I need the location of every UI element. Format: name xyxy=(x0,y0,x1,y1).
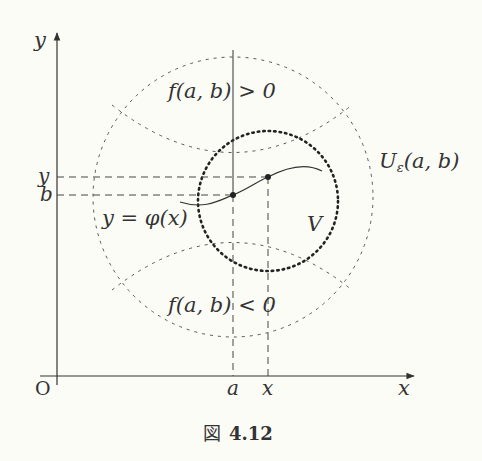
implicit-function-label: y = φ(x) xyxy=(101,206,188,230)
neighborhood-v-label: V xyxy=(307,212,324,236)
neighborhood-u-argument: (a, b) xyxy=(404,149,460,173)
point-x-y xyxy=(265,174,271,180)
neighborhood-u-label: Uε(a, b) xyxy=(379,149,459,175)
origin-label: O xyxy=(35,377,51,399)
implicit-function-diagram: y x O y b a x f(a, b) > 0 f(a, b) < 0 y … xyxy=(0,0,482,461)
x-axis-label: x xyxy=(398,376,410,400)
upper-boundary-curve xyxy=(112,105,352,153)
tick-label-x: x xyxy=(262,376,273,400)
neighborhood-u-subscript: ε xyxy=(397,160,404,175)
lower-boundary-curve xyxy=(112,243,352,291)
point-a-b xyxy=(230,192,236,198)
region-positive-label: f(a, b) > 0 xyxy=(166,79,276,103)
caption-prefix: 図 xyxy=(203,423,221,444)
tick-label-a: a xyxy=(227,376,239,400)
neighborhood-u-main: U xyxy=(379,149,398,173)
tick-label-b: b xyxy=(40,182,53,206)
y-axis-label: y xyxy=(33,28,47,52)
caption-number: 4.12 xyxy=(229,423,273,444)
region-negative-label: f(a, b) < 0 xyxy=(166,293,276,317)
implicit-function-curve xyxy=(180,167,322,205)
figure-caption: 図4.12 xyxy=(203,423,273,444)
